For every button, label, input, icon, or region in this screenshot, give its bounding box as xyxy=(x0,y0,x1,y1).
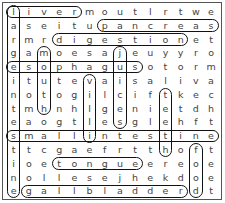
grid-cell[interactable]: k xyxy=(158,171,173,185)
grid-cell[interactable]: i xyxy=(143,102,158,116)
grid-cell[interactable]: l xyxy=(67,184,82,198)
grid-cell[interactable]: t xyxy=(67,19,82,33)
grid-cell[interactable]: a xyxy=(203,74,218,88)
grid-cell[interactable]: t xyxy=(203,143,218,157)
grid-cell[interactable]: e xyxy=(82,143,97,157)
grid-cell[interactable]: s xyxy=(82,171,97,185)
grid-cell[interactable]: a xyxy=(67,143,82,157)
grid-cell[interactable]: r xyxy=(112,143,127,157)
grid-cell[interactable]: l xyxy=(52,171,67,185)
grid-cell[interactable]: e xyxy=(112,102,127,116)
grid-cell[interactable]: n xyxy=(128,19,143,33)
grid-cell[interactable]: a xyxy=(21,46,36,60)
grid-cell[interactable]: i xyxy=(82,88,97,102)
grid-cell[interactable]: y xyxy=(173,46,188,60)
grid-cell[interactable]: f xyxy=(97,143,112,157)
grid-cell[interactable]: e xyxy=(36,157,51,171)
grid-cell[interactable]: t xyxy=(203,115,218,129)
grid-cell[interactable]: e xyxy=(203,157,218,171)
grid-cell[interactable]: e xyxy=(173,157,188,171)
grid-cell[interactable]: n xyxy=(6,171,21,185)
grid-cell[interactable]: a xyxy=(143,74,158,88)
grid-cell[interactable]: l xyxy=(158,74,173,88)
grid-cell[interactable]: o xyxy=(67,157,82,171)
grid-cell[interactable]: t xyxy=(203,33,218,47)
grid-cell[interactable]: e xyxy=(158,102,173,116)
grid-cell[interactable]: s xyxy=(6,129,21,143)
grid-cell[interactable]: a xyxy=(112,19,127,33)
grid-cell[interactable]: b xyxy=(82,184,97,198)
grid-cell[interactable]: e xyxy=(6,184,21,198)
grid-cell[interactable]: d xyxy=(188,102,203,116)
grid-cell[interactable]: i xyxy=(173,74,188,88)
grid-cell[interactable]: d xyxy=(52,33,67,47)
grid-cell[interactable]: s xyxy=(21,19,36,33)
grid-cell[interactable]: i xyxy=(21,5,36,19)
grid-cell[interactable]: a xyxy=(36,184,51,198)
grid-cell[interactable]: e xyxy=(203,5,218,19)
grid-cell[interactable]: r xyxy=(173,184,188,198)
grid-cell[interactable]: l xyxy=(67,129,82,143)
grid-cell[interactable]: n xyxy=(173,33,188,47)
grid-cell[interactable]: l xyxy=(82,115,97,129)
grid-cell[interactable]: e xyxy=(52,5,67,19)
grid-cell[interactable]: d xyxy=(173,171,188,185)
grid-cell[interactable]: l xyxy=(97,184,112,198)
grid-cell[interactable]: s xyxy=(21,60,36,74)
grid-cell[interactable]: e xyxy=(36,19,51,33)
grid-cell[interactable]: u xyxy=(82,19,97,33)
grid-cell[interactable]: o xyxy=(158,33,173,47)
grid-cell[interactable]: w xyxy=(188,5,203,19)
grid-cell[interactable]: l xyxy=(82,102,97,116)
grid-cell[interactable]: l xyxy=(6,5,21,19)
grid-cell[interactable]: i xyxy=(143,33,158,47)
grid-cell[interactable]: j xyxy=(112,46,127,60)
grid-cell[interactable]: d xyxy=(128,184,143,198)
grid-cell[interactable]: e xyxy=(143,171,158,185)
grid-cell[interactable]: t xyxy=(173,5,188,19)
grid-cell[interactable]: e xyxy=(6,60,21,74)
grid-cell[interactable]: r xyxy=(6,33,21,47)
grid-cell[interactable]: s xyxy=(128,60,143,74)
grid-cell[interactable]: o xyxy=(52,46,67,60)
grid-cell[interactable]: t xyxy=(21,74,36,88)
grid-cell[interactable]: s xyxy=(203,19,218,33)
grid-cell[interactable]: t xyxy=(36,88,51,102)
grid-cell[interactable]: l xyxy=(143,5,158,19)
grid-cell[interactable]: i xyxy=(67,33,82,47)
grid-cell[interactable]: t xyxy=(67,115,82,129)
grid-cell[interactable]: e xyxy=(67,171,82,185)
grid-cell[interactable]: c xyxy=(203,88,218,102)
grid-cell[interactable]: t xyxy=(6,102,21,116)
grid-cell[interactable]: e xyxy=(128,157,143,171)
grid-cell[interactable]: u xyxy=(143,46,158,60)
grid-cell[interactable]: g xyxy=(21,184,36,198)
grid-cell[interactable]: y xyxy=(158,46,173,60)
grid-cell[interactable]: n xyxy=(52,102,67,116)
grid-cell[interactable]: v xyxy=(188,74,203,88)
grid-cell[interactable]: t xyxy=(158,88,173,102)
grid-cell[interactable]: c xyxy=(143,19,158,33)
grid-cell[interactable]: c xyxy=(112,88,127,102)
grid-cell[interactable]: t xyxy=(128,33,143,47)
grid-cell[interactable]: e xyxy=(188,33,203,47)
grid-cell[interactable]: o xyxy=(97,5,112,19)
grid-cell[interactable]: i xyxy=(52,19,67,33)
grid-cell[interactable]: e xyxy=(67,74,82,88)
grid-cell[interactable]: i xyxy=(6,157,21,171)
grid-cell[interactable]: t xyxy=(203,184,218,198)
grid-cell[interactable]: f xyxy=(188,143,203,157)
grid-cell[interactable]: d xyxy=(188,184,203,198)
grid-cell[interactable]: m xyxy=(36,46,51,60)
grid-cell[interactable]: e xyxy=(67,46,82,60)
grid-cell[interactable]: m xyxy=(203,60,218,74)
grid-cell[interactable]: e xyxy=(97,171,112,185)
grid-cell[interactable]: r xyxy=(36,33,51,47)
grid-cell[interactable]: a xyxy=(21,115,36,129)
grid-cell[interactable]: g xyxy=(6,46,21,60)
grid-cell[interactable]: n xyxy=(97,129,112,143)
grid-cell[interactable]: a xyxy=(36,129,51,143)
grid-cell[interactable]: s xyxy=(143,129,158,143)
grid-cell[interactable]: m xyxy=(21,33,36,47)
grid-cell[interactable]: l xyxy=(52,129,67,143)
